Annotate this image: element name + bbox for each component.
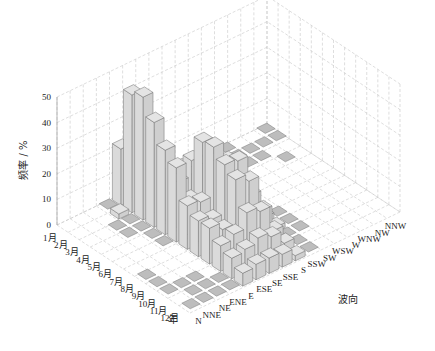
bar bbox=[255, 137, 273, 147]
z-tick-label: 10 bbox=[42, 194, 52, 204]
z-tick-label: 20 bbox=[42, 169, 52, 179]
direction-tick-label: S bbox=[301, 265, 306, 275]
z-tick-label: 50 bbox=[42, 92, 52, 102]
direction-axis-title: 波向 bbox=[338, 293, 358, 305]
bar bbox=[173, 278, 191, 288]
bar bbox=[108, 220, 126, 230]
direction-tick-label: E bbox=[248, 291, 254, 301]
bar bbox=[186, 271, 204, 281]
z-axis-title: 频率 / % bbox=[17, 140, 29, 179]
z-tick-label: 0 bbox=[47, 220, 52, 230]
bar bbox=[184, 285, 202, 295]
bar bbox=[291, 221, 309, 231]
direction-tick-label: ESE bbox=[256, 284, 273, 294]
direction-tick-label: NNW bbox=[385, 221, 407, 231]
bar bbox=[197, 279, 215, 289]
bar bbox=[253, 150, 271, 160]
bar bbox=[208, 286, 226, 296]
bar bbox=[160, 284, 178, 294]
direction-tick-label: SE bbox=[272, 278, 283, 288]
direction-tick-label: SSE bbox=[283, 272, 299, 282]
month-axis-title: 年 bbox=[168, 313, 178, 325]
bar bbox=[195, 292, 213, 302]
bar bbox=[257, 123, 275, 133]
bar bbox=[242, 143, 260, 153]
direction-tick-label: N bbox=[195, 316, 202, 326]
bar bbox=[268, 130, 286, 140]
bar bbox=[149, 276, 167, 286]
z-tick-label: 40 bbox=[42, 118, 52, 128]
3d-bar-chart: 010203040501月2月3月4月5月6月7月8月9月10月11月12月NN… bbox=[0, 0, 435, 351]
bar bbox=[277, 151, 295, 161]
bar bbox=[138, 269, 156, 279]
bar bbox=[234, 263, 252, 286]
z-tick-label: 30 bbox=[42, 143, 52, 153]
direction-tick-label: ENE bbox=[229, 297, 247, 307]
bar bbox=[119, 227, 137, 237]
bar bbox=[182, 298, 200, 308]
